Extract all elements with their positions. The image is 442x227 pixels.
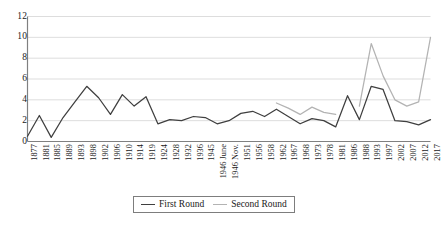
data-series-lines — [28, 37, 431, 137]
legend-label-second-round: Second Round — [231, 199, 287, 209]
legend-swatch-second-round — [213, 204, 227, 205]
series-line-first-round — [28, 86, 431, 137]
y-tick-label-8: 8 — [5, 53, 27, 63]
legend-item-second-round[interactable]: Second Round — [213, 199, 287, 209]
series-line-second-round — [276, 103, 335, 114]
chart-plot-svg — [0, 0, 439, 150]
y-axis: 024681012 — [0, 0, 27, 150]
legend-swatch-first-round — [141, 204, 155, 205]
y-tick-label-4: 4 — [5, 95, 27, 105]
plot-area — [0, 0, 439, 150]
y-tick-label-0: 0 — [5, 137, 27, 147]
y-tick-label-10: 10 — [5, 32, 27, 42]
gridlines — [28, 17, 431, 142]
legend-label-first-round: First Round — [159, 199, 204, 209]
y-tick-label-6: 6 — [5, 74, 27, 84]
y-tick-label-12: 12 — [5, 12, 27, 22]
series-line-second-round — [359, 37, 430, 106]
chart-legend: First Round Second Round — [133, 196, 295, 213]
y-tick-label-2: 2 — [5, 116, 27, 126]
legend-item-first-round[interactable]: First Round — [141, 199, 204, 209]
